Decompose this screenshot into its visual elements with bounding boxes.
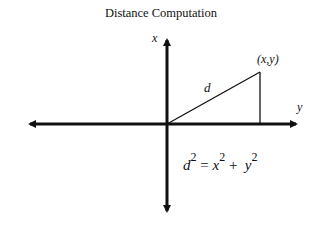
eq-equals: = [200,157,208,173]
hypotenuse-label: d [204,80,211,96]
eq-plus: + [229,157,237,173]
vertical-axis-label: x [152,31,157,46]
eq-lhs-var: d [183,157,191,173]
point-label: (x,y) [257,52,279,67]
coordinate-diagram [0,0,322,230]
eq-term1-exp: 2 [219,150,225,164]
distance-equation: d2 = x2 + y2 [183,153,258,174]
horizontal-axis-label: y [297,100,302,115]
eq-term2-exp: 2 [252,150,258,164]
eq-term2-var: y [245,157,252,173]
eq-lhs-exp: 2 [191,150,197,164]
hypotenuse-line [167,72,260,124]
